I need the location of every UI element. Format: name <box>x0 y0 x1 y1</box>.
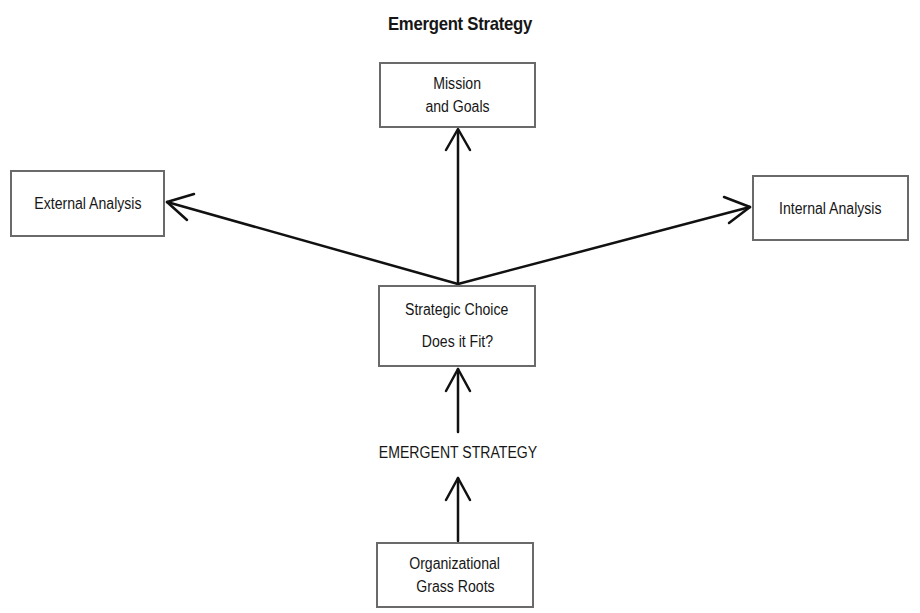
arrow-emergent-to-choice <box>446 369 470 432</box>
grass-roots-box: Organizational Grass Roots <box>376 542 534 608</box>
mission-line1: Mission <box>434 72 482 95</box>
grassroots-line2: Grass Roots <box>416 575 494 598</box>
arrow-choice-to-mission <box>446 129 470 284</box>
mission-line2: and Goals <box>425 95 489 118</box>
arrow-choice-to-external <box>167 194 458 284</box>
external-analysis-box: External Analysis <box>10 170 165 237</box>
grassroots-line1: Organizational <box>410 552 501 575</box>
arrow-grassroots-to-emergent <box>446 478 470 541</box>
mission-goals-box: Mission and Goals <box>379 62 536 128</box>
external-label: External Analysis <box>34 192 141 215</box>
emergent-strategy-label: EMERGENT STRATEGY <box>370 444 546 462</box>
strategic-choice-box: Strategic Choice Does it Fit? <box>378 285 536 367</box>
internal-label: Internal Analysis <box>779 197 882 220</box>
choice-line1: Strategic Choice <box>405 294 508 326</box>
arrow-choice-to-internal <box>458 197 750 284</box>
choice-line2: Does it Fit? <box>421 326 492 358</box>
internal-analysis-box: Internal Analysis <box>752 175 909 241</box>
